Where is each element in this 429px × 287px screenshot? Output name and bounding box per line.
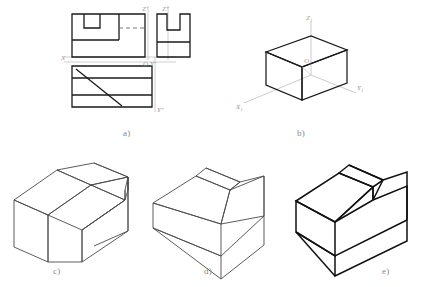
isometric-box-interior-edges xyxy=(302,67,311,75)
label-o1: O1 xyxy=(304,57,312,66)
axis-y1-ray xyxy=(311,75,356,93)
caption-e: e) xyxy=(382,266,389,276)
panel-a-axis-lines xyxy=(64,6,176,112)
c-bottom-right-edge xyxy=(82,231,128,262)
c-right-rail-edge xyxy=(82,177,128,230)
e-base-diagonal xyxy=(296,232,335,276)
figure-canvas: Z′ Z″ X Y′ Y″ O xyxy=(0,0,429,287)
top-view-diagonal xyxy=(76,69,122,106)
front-view-outline xyxy=(72,14,145,57)
caption-d: d) xyxy=(204,266,212,276)
d-bottom-edge xyxy=(153,216,264,256)
c-right-outer xyxy=(94,163,128,246)
c-left-top-face xyxy=(14,170,91,215)
c-slot-bottom-right-edge xyxy=(82,200,125,230)
axis-x1-ray xyxy=(244,75,311,103)
d-upper-slope xyxy=(153,176,230,224)
d-right-top-edge xyxy=(240,176,264,216)
label-y1: Y1 xyxy=(357,84,363,93)
e-slot-inner-face xyxy=(335,180,383,222)
c-left-front-face xyxy=(14,200,48,262)
top-view-outline xyxy=(72,66,152,107)
label-z1: Z1 xyxy=(306,14,312,23)
caption-a: a) xyxy=(123,128,130,138)
d-front-face xyxy=(153,203,221,256)
c-slot-inner-right xyxy=(91,177,128,200)
panel-b-axis-labels: Z1 X1 Y1 O1 xyxy=(235,14,363,112)
e-rail-top-face xyxy=(339,165,383,187)
e-slot-floor-right xyxy=(335,186,407,222)
front-view-notch xyxy=(84,14,100,28)
panel-a-orthographic: Z′ Z″ X Y′ Y″ O xyxy=(60,5,190,114)
c-slot-floor xyxy=(48,185,125,230)
panel-b-isometric-axes: Z1 X1 Y1 O1 xyxy=(235,14,363,112)
label-origin: O xyxy=(143,60,148,68)
d-rail-edge xyxy=(230,182,240,190)
caption-c: c) xyxy=(53,266,60,276)
label-x1: X1 xyxy=(235,103,243,112)
technical-drawing-figure: Z′ Z″ X Y′ Y″ O xyxy=(0,0,429,287)
c-rail-top-left xyxy=(57,163,128,185)
d-rail-back-edge xyxy=(206,168,240,182)
label-z-prime: Z′ xyxy=(142,5,148,13)
c-bottom-front xyxy=(48,230,82,262)
side-view-outline xyxy=(157,14,190,57)
box-left-face xyxy=(266,52,302,100)
d-right-face xyxy=(221,176,264,224)
label-y-prime: Y′ xyxy=(150,60,156,68)
isometric-bounding-box xyxy=(266,36,347,100)
e-rail-back-edge xyxy=(349,165,383,180)
front-view xyxy=(72,14,145,57)
panel-e-solid xyxy=(296,165,407,276)
e-left-front-face xyxy=(296,201,335,256)
side-view xyxy=(157,14,190,57)
d-base-chamfer xyxy=(221,216,264,279)
caption-b: b) xyxy=(297,128,305,138)
label-y-double-prime: Y″ xyxy=(157,106,164,114)
panel-d-solid xyxy=(153,168,264,279)
e-base-front-chamfer xyxy=(335,220,407,276)
box-center-edge xyxy=(302,67,311,75)
top-view xyxy=(72,66,152,107)
panel-b-axis-rays xyxy=(244,22,356,103)
label-x: X xyxy=(60,54,66,62)
label-z-double-prime: Z″ xyxy=(162,5,169,13)
e-right-top-edge xyxy=(383,172,407,220)
panel-c-solid xyxy=(14,163,128,262)
